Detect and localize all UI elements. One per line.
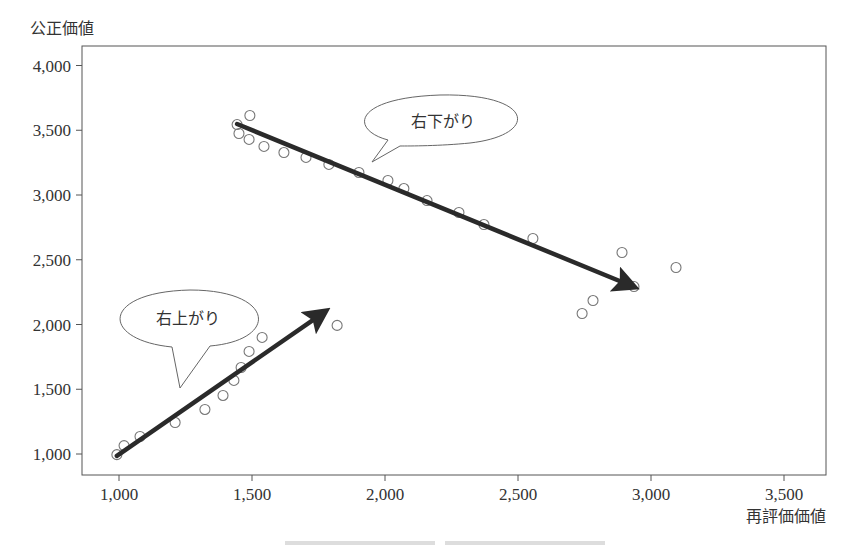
data-point-circle	[671, 263, 681, 273]
y-axis: 1,0001,5002,0002,5003,0003,5004,000	[33, 57, 82, 465]
y-tick-label: 2,500	[33, 251, 71, 270]
callout-down-text: 右下がり	[411, 112, 475, 131]
data-point-circle	[617, 247, 627, 257]
x-tick-label: 2,500	[499, 485, 537, 504]
data-point-circle	[588, 296, 598, 306]
x-tick-label: 1,000	[100, 485, 138, 504]
x-tick-label: 1,500	[233, 485, 271, 504]
data-point-circle	[245, 110, 255, 120]
callout-downward: 右下がり	[365, 95, 518, 162]
downward-trend-arrow	[237, 124, 628, 284]
y-tick-label: 3,500	[33, 121, 71, 140]
y-tick-label: 1,000	[33, 445, 71, 464]
callout-up-text: 右上がり	[156, 309, 220, 328]
data-point-circle	[218, 390, 228, 400]
y-tick-label: 2,000	[33, 316, 71, 335]
data-point-circle	[259, 141, 269, 151]
y-tick-label: 4,000	[33, 57, 71, 76]
data-point-circle	[629, 282, 639, 292]
data-point-circle	[244, 134, 254, 144]
x-tick-label: 2,000	[366, 485, 404, 504]
y-tick-label: 1,500	[33, 380, 71, 399]
data-point-circle	[332, 320, 342, 330]
x-axis-title: 再評価価値	[746, 507, 826, 526]
figure-caption-partial	[285, 541, 605, 545]
data-points	[112, 110, 681, 459]
data-point-circle	[200, 404, 210, 414]
x-axis: 1,0001,5002,0002,5003,0003,500	[100, 475, 803, 504]
data-point-circle	[577, 308, 587, 318]
data-point-circle	[234, 128, 244, 138]
data-point-circle	[257, 332, 267, 342]
y-tick-label: 3,000	[33, 186, 71, 205]
x-tick-label: 3,500	[765, 485, 803, 504]
x-tick-label: 3,000	[632, 485, 670, 504]
data-point-circle	[244, 346, 254, 356]
scatter-chart: 公正価値 1,0001,5002,0002,5003,0003,5004,000…	[0, 0, 843, 545]
y-axis-title: 公正価値	[30, 19, 94, 38]
data-point-circle	[279, 148, 289, 158]
